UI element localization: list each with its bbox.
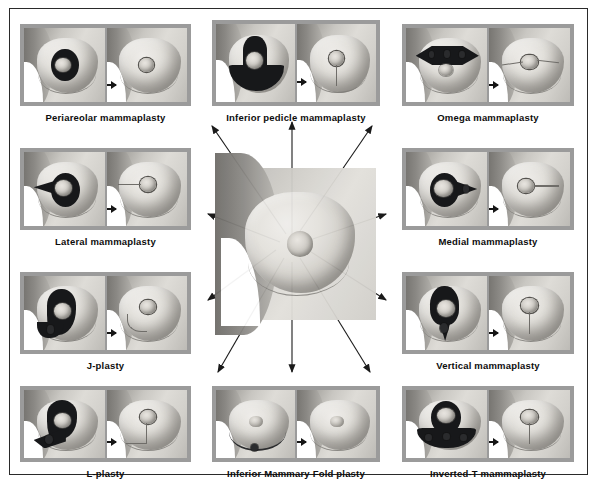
transition-arrow-icon [489, 441, 498, 443]
marking-dot [460, 434, 466, 441]
l-scar-horizontal [126, 443, 147, 444]
transition-arrow-icon [107, 208, 116, 210]
marking-dot [443, 433, 449, 440]
panel-frame [20, 386, 191, 462]
marking-dot [425, 434, 431, 441]
panel-medial[interactable]: Medial mammaplasty [402, 148, 574, 230]
transition-arrow-icon [489, 332, 498, 334]
transition-arrow-icon [107, 441, 116, 443]
before-image-lateral [24, 152, 105, 226]
panel-label-periareolar: Periareolar mammaplasty [20, 112, 191, 123]
panel-j-plasty[interactable]: J-plasty [20, 272, 191, 354]
areola-hub [287, 231, 313, 257]
after-image-j-plasty [107, 276, 188, 350]
transition-arrow-icon [489, 208, 498, 210]
panel-periareolar[interactable]: Periareolar mammaplasty [20, 24, 191, 106]
panel-l-plasty[interactable]: L-plasty [20, 386, 191, 462]
medial-scar [534, 185, 558, 186]
inverted-t-scar [529, 423, 530, 443]
before-image-inferior-mammary-fold [216, 390, 295, 458]
panel-inverted-t[interactable]: Inverted-T mammaplasty [402, 386, 574, 462]
panel-label-inferior-mammary-fold: Inferior Mammary Fold plasty [212, 468, 380, 479]
after-image-lateral [107, 152, 188, 226]
nipple [434, 180, 453, 197]
after-image-omega [489, 28, 570, 102]
panel-frame [20, 148, 191, 230]
panel-frame [402, 148, 574, 230]
panel-frame [402, 272, 574, 354]
after-image-l-plasty [107, 390, 188, 458]
nipple [330, 416, 343, 428]
panel-frame [402, 24, 574, 106]
nipple [140, 300, 156, 315]
vertical-scar [529, 312, 530, 334]
panel-label-inferior-pedicle: Inferior pedicle mammaplasty [212, 112, 380, 123]
marking-dot [440, 323, 448, 333]
lateral-scar [118, 184, 141, 185]
after-image-inferior-mammary-fold [297, 390, 376, 458]
panel-frame [20, 24, 191, 106]
l-scar-vertical [146, 423, 147, 443]
panel-inferior-mammary-fold[interactable]: Inferior Mammary Fold plasty [212, 386, 380, 462]
panel-label-inverted-t: Inverted-T mammaplasty [402, 468, 574, 479]
transition-arrow-icon [107, 332, 116, 334]
central-breast-diagram [224, 168, 376, 320]
panel-label-lateral: Lateral mammaplasty [20, 236, 191, 247]
after-image-medial [489, 152, 570, 226]
before-image-l-plasty [24, 390, 105, 458]
panel-label-vertical: Vertical mammaplasty [402, 360, 574, 371]
transition-arrow-icon [107, 84, 116, 86]
nipple [139, 58, 154, 72]
nipple [521, 298, 537, 313]
panel-frame [20, 272, 191, 354]
panel-label-medial: Medial mammaplasty [402, 236, 574, 247]
before-image-inverted-t [406, 390, 487, 458]
after-image-inferior-pedicle [297, 24, 376, 102]
nipple [55, 58, 71, 73]
panel-label-l-plasty: L-plasty [20, 468, 191, 479]
before-image-vertical [406, 276, 487, 350]
figure-canvas: Periareolar mammaplasty In [0, 0, 598, 497]
after-image-periareolar [107, 28, 188, 102]
marking-dot [45, 435, 53, 444]
transition-arrow-icon [297, 441, 306, 443]
panel-frame [402, 386, 574, 462]
nipple [439, 64, 453, 77]
nipple [521, 410, 537, 424]
nipple [249, 416, 262, 428]
panel-label-j-plasty: J-plasty [20, 360, 191, 371]
nipple [140, 410, 156, 424]
nipple [521, 55, 537, 70]
marking-dot [251, 444, 258, 451]
panel-inferior-pedicle[interactable]: Inferior pedicle mammaplasty [212, 20, 380, 106]
panel-label-omega: Omega mammaplasty [402, 112, 574, 123]
transition-arrow-icon [489, 84, 498, 86]
panel-frame [212, 386, 380, 462]
transition-arrow-icon [297, 81, 306, 83]
before-image-omega [406, 28, 487, 102]
panel-omega[interactable]: Omega mammaplasty [402, 24, 574, 106]
after-image-inverted-t [489, 390, 570, 458]
before-image-inferior-pedicle [216, 24, 295, 102]
before-image-medial [406, 152, 487, 226]
panel-lateral[interactable]: Lateral mammaplasty [20, 148, 191, 230]
panel-vertical[interactable]: Vertical mammaplasty [402, 272, 574, 354]
vertical-scar [336, 65, 337, 85]
panel-frame [212, 20, 380, 106]
after-image-vertical [489, 276, 570, 350]
marking-dot [444, 50, 450, 57]
before-image-j-plasty [24, 276, 105, 350]
before-image-periareolar [24, 28, 105, 102]
marking-dot [47, 325, 54, 334]
